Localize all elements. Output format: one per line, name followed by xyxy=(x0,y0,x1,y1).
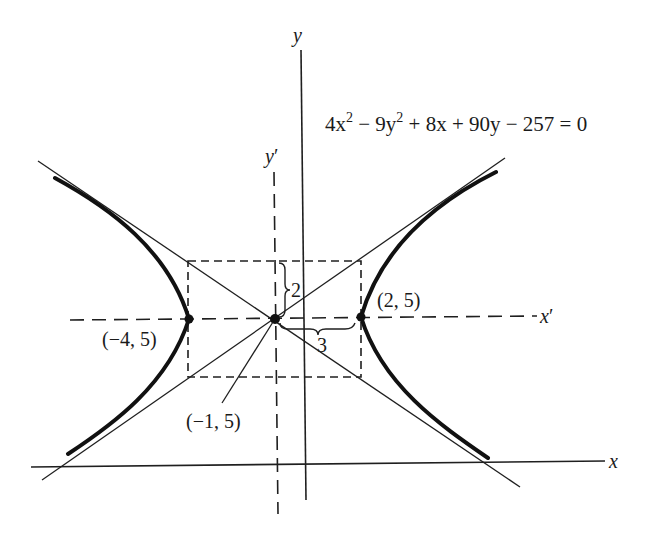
y-prime-axis xyxy=(274,172,278,514)
y-prime-axis-label: y′ xyxy=(263,145,278,168)
semi-transverse-label: 3 xyxy=(317,334,327,356)
hyperbola-left-branch xyxy=(55,178,189,454)
hyperbola-figure: y x y′ x′ 2 3 (−1, 5) (−4, 5) (2, 5) 4x2… xyxy=(0,0,663,539)
center-leader-line xyxy=(222,322,273,403)
right-vertex-label: (2, 5) xyxy=(377,289,420,312)
y-axis-label: y xyxy=(291,24,302,47)
left-vertex-label: (−4, 5) xyxy=(102,328,157,351)
hyperbola-right-branch xyxy=(361,172,496,458)
asymptote-negative-slope xyxy=(38,161,520,487)
y-axis xyxy=(301,50,306,500)
left-vertex-point xyxy=(185,315,194,324)
center-point xyxy=(270,314,280,324)
x-prime-axis-label: x′ xyxy=(539,305,553,327)
x-axis xyxy=(31,461,605,467)
x-axis-label: x xyxy=(608,450,618,472)
semi-conjugate-label: 2 xyxy=(291,279,301,301)
equation-label: 4x2 − 9y2 + 8x + 90y − 257 = 0 xyxy=(325,110,587,136)
center-label: (−1, 5) xyxy=(186,410,241,433)
right-vertex-point xyxy=(357,313,366,322)
